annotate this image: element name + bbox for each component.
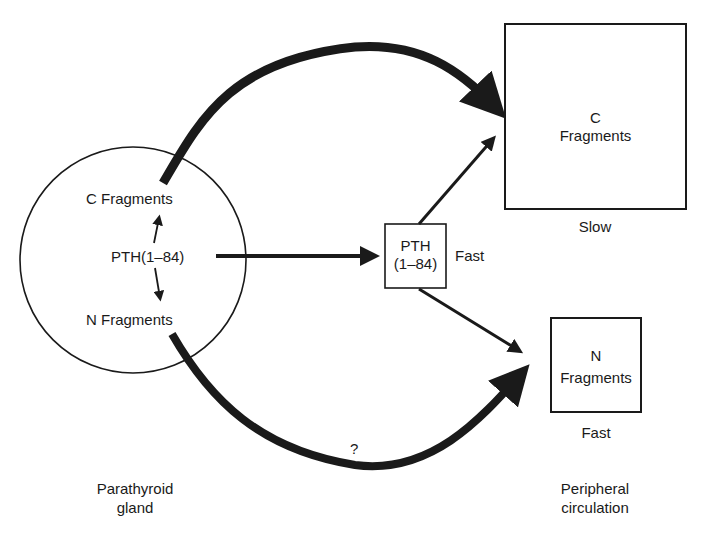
n-pool-line2: Fragments	[551, 369, 641, 387]
periphery-caption-line2: circulation	[540, 499, 650, 517]
pth-box-line2: (1–84)	[385, 255, 446, 273]
c-pool-rate-label: Slow	[545, 218, 645, 236]
parathyroid-caption-line2: gland	[75, 499, 195, 517]
pth-cleavage-n-arrow	[155, 268, 160, 298]
gland-pth-label: PTH(1–84)	[111, 248, 184, 266]
gland-n-fragments-label: N Fragments	[86, 311, 173, 329]
pth-to-n-fragments-arrow	[419, 289, 518, 350]
n-pool-line1: N	[551, 347, 641, 365]
parathyroid-caption-line1: Parathyroid	[75, 480, 195, 498]
n-fragments-secretion-arrow	[172, 334, 520, 466]
n-pool-rate-label: Fast	[546, 424, 646, 442]
pth-to-c-fragments-arrow	[419, 140, 492, 224]
diagram-canvas	[0, 0, 702, 542]
unknown-pathway-label: ?	[350, 440, 358, 458]
c-pool-line1: C	[505, 109, 686, 127]
c-pool-line2: Fragments	[505, 127, 686, 145]
gland-c-fragments-label: C Fragments	[86, 190, 173, 208]
periphery-caption-line1: Peripheral	[540, 480, 650, 498]
pth-box-line1: PTH	[385, 237, 446, 255]
pth-cleavage-c-arrow	[154, 218, 159, 243]
n-fragments-pool-box	[551, 318, 641, 412]
pth-rate-label: Fast	[455, 247, 484, 265]
c-fragments-secretion-arrow	[163, 46, 495, 183]
